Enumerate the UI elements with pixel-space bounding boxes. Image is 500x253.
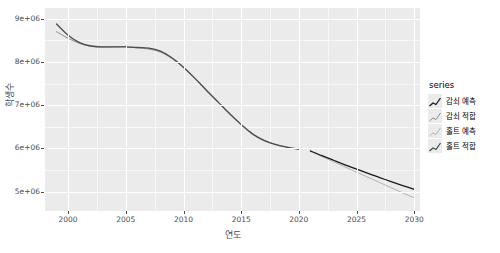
gridline-major-horizontal bbox=[45, 192, 420, 193]
plot-panel bbox=[45, 8, 420, 211]
x-tick-mark bbox=[357, 211, 358, 214]
legend-key-line-icon bbox=[428, 109, 442, 123]
gridline-major-horizontal bbox=[45, 62, 420, 63]
legend-label: 홀트 예측 bbox=[446, 125, 476, 136]
legend-key-line-icon bbox=[428, 94, 442, 108]
gridline-major-horizontal bbox=[45, 105, 420, 106]
x-tick-mark bbox=[299, 211, 300, 214]
y-tick-label: 5e+06 bbox=[10, 187, 40, 196]
series-line bbox=[57, 24, 299, 149]
x-tick-mark bbox=[184, 211, 185, 214]
x-tick-mark bbox=[126, 211, 127, 214]
x-tick-label: 2020 bbox=[279, 215, 319, 224]
y-tick-label: 8e+06 bbox=[10, 57, 40, 66]
x-tick-label: 2000 bbox=[48, 215, 88, 224]
legend-item[interactable]: 감쇠 적합 bbox=[428, 108, 500, 123]
gridline-major-vertical bbox=[299, 8, 300, 211]
legend-label: 감쇠 적합 bbox=[446, 110, 476, 121]
y-tick-mark bbox=[41, 105, 44, 106]
y-tick-mark bbox=[41, 62, 44, 63]
legend-key-line-icon bbox=[428, 124, 442, 138]
legend-item[interactable]: 홀트 예측 bbox=[428, 123, 500, 138]
gridline-major-vertical bbox=[68, 8, 69, 211]
legend-label: 홀트 적합 bbox=[446, 140, 476, 151]
gridline-major-vertical bbox=[241, 8, 242, 211]
series-line bbox=[57, 32, 299, 149]
gridline-major-horizontal bbox=[45, 148, 420, 149]
series-line bbox=[310, 151, 414, 189]
x-tick-mark bbox=[414, 211, 415, 214]
gridline-major-vertical bbox=[184, 8, 185, 211]
gridline-major-vertical bbox=[126, 8, 127, 211]
gridline-major-vertical bbox=[357, 8, 358, 211]
y-axis: 5e+066e+067e+068e+069e+06 bbox=[10, 0, 40, 253]
x-tick-label: 2005 bbox=[106, 215, 146, 224]
chart-root: 학생수 5e+066e+067e+068e+069e+06 연도 series … bbox=[0, 0, 500, 253]
x-axis-title: 연도 bbox=[45, 228, 420, 241]
legend-title: series bbox=[428, 80, 500, 90]
legend-item[interactable]: 홀트 적합 bbox=[428, 138, 500, 153]
gridline-major-horizontal bbox=[45, 19, 420, 20]
x-tick-mark bbox=[68, 211, 69, 214]
gridline-major-vertical bbox=[414, 8, 415, 211]
x-tick-mark bbox=[241, 211, 242, 214]
legend-items: 감쇠 예측감쇠 적합홀트 예측홀트 적합 bbox=[428, 93, 500, 153]
legend-key-line-icon bbox=[428, 139, 442, 153]
x-tick-label: 2015 bbox=[221, 215, 261, 224]
series-lines bbox=[45, 8, 420, 211]
x-tick-label: 2030 bbox=[394, 215, 434, 224]
x-tick-label: 2025 bbox=[337, 215, 377, 224]
legend: series 감쇠 예측감쇠 적합홀트 예측홀트 적합 bbox=[428, 80, 500, 153]
y-tick-mark bbox=[41, 148, 44, 149]
y-tick-label: 6e+06 bbox=[10, 143, 40, 152]
legend-label: 감쇠 예측 bbox=[446, 95, 476, 106]
y-tick-label: 7e+06 bbox=[10, 100, 40, 109]
y-tick-mark bbox=[41, 19, 44, 20]
legend-item[interactable]: 감쇠 예측 bbox=[428, 93, 500, 108]
y-tick-label: 9e+06 bbox=[10, 14, 40, 23]
y-tick-mark bbox=[41, 192, 44, 193]
x-tick-label: 2010 bbox=[164, 215, 204, 224]
